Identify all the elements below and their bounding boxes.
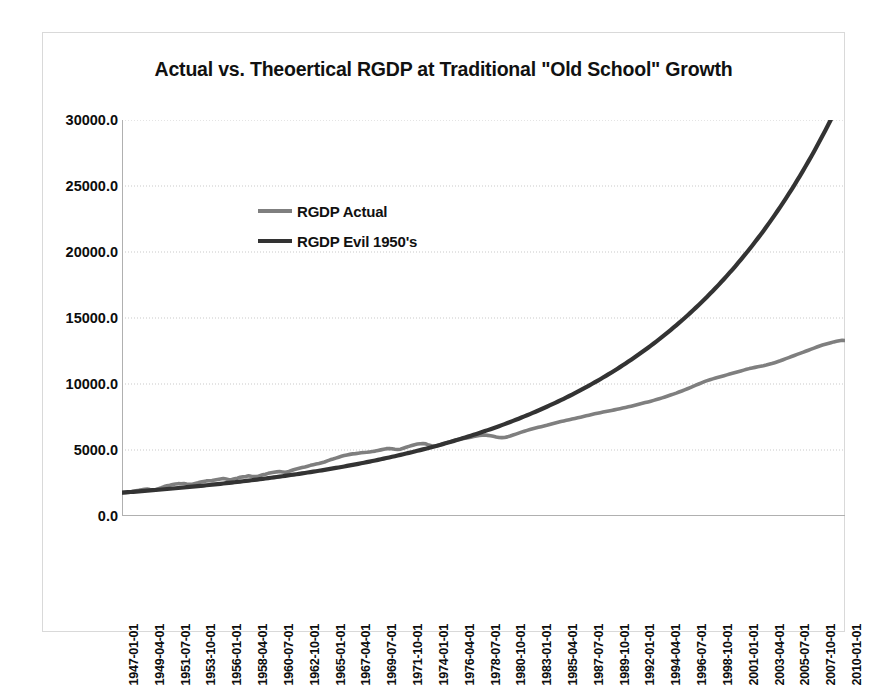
x-axis-tick-label: 1960-07-01 (282, 624, 296, 685)
y-axis-tick-label: 15000.0 (32, 310, 118, 326)
legend-label: RGDP Evil 1950's (297, 233, 417, 250)
y-axis: 0.05000.010000.015000.020000.025000.0300… (26, 120, 118, 516)
x-axis-tick-label: 1951-07-01 (179, 624, 193, 685)
x-axis-tick-label: 1994-04-01 (669, 624, 683, 685)
y-axis-tick-label: 0.0 (32, 508, 118, 524)
x-axis-tick-label: 1983-01-01 (540, 624, 554, 685)
x-axis-tick-label: 1953-10-01 (204, 624, 218, 685)
x-axis-tick-label: 1974-01-01 (437, 624, 451, 685)
legend-label: RGDP Actual (297, 203, 387, 220)
legend-swatch-icon (258, 239, 292, 243)
x-axis-tick-label: 1958-04-01 (256, 624, 270, 685)
x-axis-tick-label: 1949-04-01 (153, 624, 167, 685)
x-axis-tick-label: 1978-07-01 (489, 624, 503, 685)
x-axis-tick-label: 1971-10-01 (411, 624, 425, 685)
x-axis-tick-label: 1967-04-01 (359, 624, 373, 685)
y-axis-tick-label: 20000.0 (32, 244, 118, 260)
x-axis-tick-label: 2007-10-01 (824, 624, 838, 685)
y-axis-tick-label: 25000.0 (32, 178, 118, 194)
y-axis-tick-label: 5000.0 (32, 442, 118, 458)
y-axis-tick-label: 30000.0 (32, 112, 118, 128)
legend-item[interactable]: RGDP Actual (258, 196, 488, 226)
x-axis-tick-label: 2001-01-01 (747, 624, 761, 685)
x-axis-tick-label: 1969-07-01 (385, 624, 399, 685)
x-axis-tick-label: 1947-01-01 (127, 624, 141, 685)
x-axis-tick-label: 1987-07-01 (592, 624, 606, 685)
x-axis-tick-label: 1996-07-01 (695, 624, 709, 685)
series-line (122, 340, 845, 492)
x-axis-tick-label: 1956-01-01 (230, 624, 244, 685)
plot-svg (122, 120, 845, 516)
x-axis-tick-label: 1976-04-01 (463, 624, 477, 685)
legend-swatch-icon (258, 209, 292, 213)
x-axis-tick-label: 2003-04-01 (773, 624, 787, 685)
y-axis-tick-label: 10000.0 (32, 376, 118, 392)
plot-area (122, 120, 845, 516)
x-axis-tick-label: 1962-10-01 (308, 624, 322, 685)
x-axis-tick-label: 2005-07-01 (798, 624, 812, 685)
x-axis-tick-label: 1965-01-01 (334, 624, 348, 685)
x-axis-tick-label: 1989-10-01 (618, 624, 632, 685)
chart-title: Actual vs. Theoertical RGDP at Tradition… (42, 58, 845, 81)
x-axis-tick-label: 1998-10-01 (721, 624, 735, 685)
x-axis-tick-label: 1980-10-01 (514, 624, 528, 685)
legend-item[interactable]: RGDP Evil 1950's (258, 226, 488, 256)
x-axis: 1947-01-011949-04-011951-07-011953-10-01… (122, 520, 845, 628)
x-axis-tick-label: 1992-01-01 (643, 624, 657, 685)
x-axis-tick-label: 1985-04-01 (566, 624, 580, 685)
chart-legend: RGDP ActualRGDP Evil 1950's (258, 196, 488, 256)
x-axis-tick-label: 2010-01-01 (850, 624, 864, 685)
